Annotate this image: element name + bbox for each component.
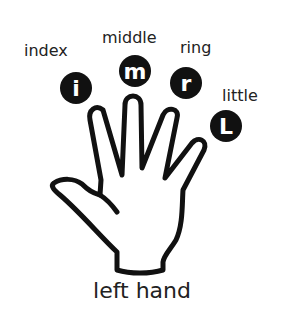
- middle-finger-badge-icon: m: [119, 55, 151, 87]
- label-middle: middle: [102, 30, 157, 46]
- label-ring: ring: [180, 40, 211, 56]
- index-finger-badge-icon: i: [60, 72, 92, 104]
- little-finger-badge-icon: L: [210, 110, 242, 142]
- ring-finger-badge-icon: r: [170, 67, 202, 99]
- label-little: little: [222, 88, 258, 104]
- diagram-title: left hand: [0, 278, 284, 303]
- label-index: index: [24, 43, 68, 59]
